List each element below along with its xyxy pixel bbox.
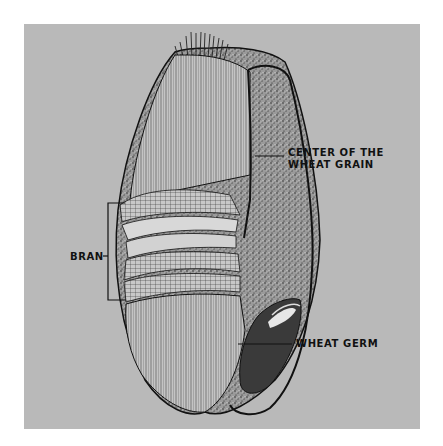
center-label-line2: WHEAT GRAIN	[288, 159, 384, 171]
bran-label: BRAN	[70, 251, 104, 263]
wheat-germ-label: WHEAT GERM	[296, 338, 378, 350]
bran-layers	[120, 190, 240, 302]
wheat-kernel-illustration	[0, 0, 443, 446]
center-of-grain-label: CENTER OF THE WHEAT GRAIN	[288, 147, 384, 171]
center-label-line1: CENTER OF THE	[288, 147, 384, 159]
husk-upper	[130, 55, 250, 200]
